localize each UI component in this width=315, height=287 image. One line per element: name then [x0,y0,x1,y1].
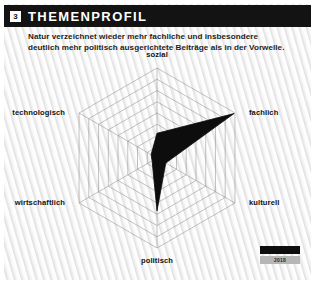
legend-swatch-current [260,246,300,254]
section-header: 3 THEMENPROFIL [4,5,311,27]
radar-chart: sozial fachlich kulturell politisch wirt… [4,62,311,280]
chart-legend: 2018 [260,246,300,266]
page-title: THEMENPROFIL [28,9,147,24]
axis-label-technologisch: technologisch [4,108,65,117]
legend-row-current [260,246,300,254]
axis-label-wirtschaftlich: wirtschaftlich [4,198,65,207]
section-number-badge: 3 [10,11,21,22]
legend-swatch-previous: 2018 [260,256,300,264]
axis-label-kulturell: kulturell [249,198,279,207]
themenprofil-panel: 3 THEMENPROFIL Natur verzeichnet wieder … [0,0,315,287]
axis-label-sozial: sozial [4,50,311,59]
legend-label-previous: 2018 [274,257,286,263]
legend-row-previous: 2018 [260,256,300,264]
axis-label-fachlich: fachlich [249,108,279,117]
